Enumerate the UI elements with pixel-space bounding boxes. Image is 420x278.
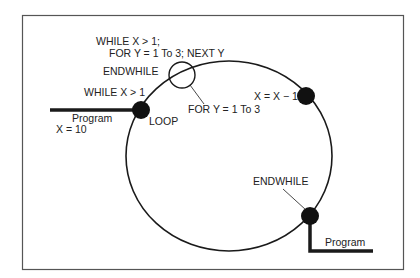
loop-node: [132, 101, 150, 119]
for-loop-node: [169, 62, 195, 88]
endwhile-node: [301, 207, 319, 225]
label-while-for-line2: FOR Y = 1 To 3; NEXT Y: [109, 47, 224, 59]
endwhile-leader-line: [283, 189, 306, 210]
label-while-x: WHILE X > 1: [84, 86, 145, 98]
label-while-for-line1: WHILE X > 1;: [96, 35, 160, 47]
for-leader-line: [190, 85, 204, 104]
label-decrement: X = X − 1: [254, 90, 298, 102]
decrement-node: [297, 87, 315, 105]
label-for-y: FOR Y = 1 To 3: [188, 103, 260, 115]
label-x-init: X = 10: [56, 123, 87, 135]
label-endwhile-bottom: ENDWHILE: [253, 175, 308, 187]
label-program-out: Program: [325, 236, 366, 248]
label-endwhile-top: ENDWHILE: [103, 65, 158, 77]
loop-diagram: WHILE X > 1; FOR Y = 1 To 3; NEXT Y ENDW…: [0, 0, 420, 278]
label-loop: LOOP: [149, 115, 178, 127]
